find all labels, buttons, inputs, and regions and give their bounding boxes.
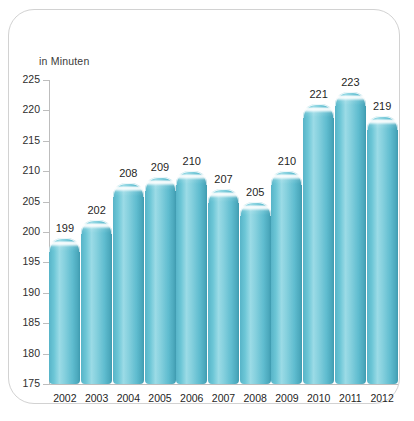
bar-group[interactable]: 205	[240, 80, 271, 384]
bar-group[interactable]: 208	[113, 80, 144, 384]
y-axis-tick-label: 180	[22, 347, 40, 359]
bar-value-label: 199	[43, 222, 86, 234]
x-axis-category-label: 2012	[360, 392, 405, 404]
bar[interactable]	[335, 92, 366, 384]
y-axis-unit-label: in Minuten	[39, 55, 89, 67]
bar[interactable]	[240, 202, 271, 384]
bar-value-label: 205	[234, 186, 277, 198]
y-axis-tick: 180	[9, 354, 49, 355]
y-axis-tick: 215	[9, 141, 49, 142]
bar-group[interactable]: 202	[81, 80, 112, 384]
plot-area: 199202208209210207205210221223219	[49, 80, 397, 384]
y-axis-tick-label: 225	[22, 73, 40, 85]
bar-group[interactable]: 210	[176, 80, 207, 384]
y-axis-tick-label: 215	[22, 134, 40, 146]
bar-group[interactable]: 223	[335, 80, 366, 384]
y-axis-tick-label: 210	[22, 164, 40, 176]
y-axis-tick: 225	[9, 80, 49, 81]
bar-group[interactable]: 210	[271, 80, 302, 384]
y-axis-tick-label: 205	[22, 195, 40, 207]
bar-value-label: 210	[170, 155, 213, 167]
bar[interactable]	[49, 238, 80, 384]
y-axis-tick-label: 185	[22, 316, 40, 328]
y-axis-tick: 210	[9, 171, 49, 172]
bar-value-label: 223	[329, 76, 372, 88]
bar-value-label: 221	[297, 88, 340, 100]
bar[interactable]	[271, 171, 302, 384]
y-axis-tick: 220	[9, 110, 49, 111]
y-axis-tick-label: 195	[22, 255, 40, 267]
y-axis-tick-label: 190	[22, 286, 40, 298]
bar-group[interactable]: 207	[208, 80, 239, 384]
bar[interactable]	[303, 104, 334, 384]
bar[interactable]	[113, 183, 144, 384]
bar[interactable]	[208, 189, 239, 384]
y-axis-tick: 185	[9, 323, 49, 324]
y-axis-tick: 195	[9, 262, 49, 263]
bar-group[interactable]: 209	[145, 80, 176, 384]
y-axis-tick: 205	[9, 202, 49, 203]
bar[interactable]	[145, 177, 176, 384]
bar[interactable]	[367, 116, 398, 384]
bar[interactable]	[176, 171, 207, 384]
bar-group[interactable]: 221	[303, 80, 334, 384]
y-axis-tick: 175	[9, 384, 49, 385]
bar-value-label: 210	[265, 155, 308, 167]
bar-group[interactable]: 219	[367, 80, 398, 384]
y-axis-tick-label: 220	[22, 103, 40, 115]
y-axis-tick: 190	[9, 293, 49, 294]
bar[interactable]	[81, 220, 112, 384]
y-axis-tick-label: 200	[22, 225, 40, 237]
chart-card: in Minuten 22522021521020520019519018518…	[8, 9, 400, 404]
bar-value-label: 202	[75, 204, 118, 216]
bar-value-label: 219	[361, 100, 404, 112]
bar-group[interactable]: 199	[49, 80, 80, 384]
x-axis-labels: 2002200320042005200620072008200920102011…	[49, 384, 398, 406]
bar-value-label: 207	[202, 173, 245, 185]
y-axis-tick-label: 175	[22, 377, 40, 389]
